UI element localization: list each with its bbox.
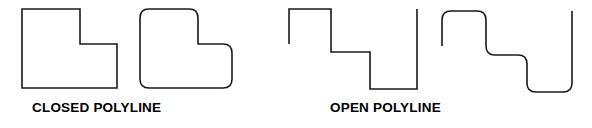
caption-open-polyline: OPEN POLYLINE (330, 100, 441, 115)
caption-closed-polyline: CLOSED POLYLINE (32, 100, 161, 115)
polyline-figure: CLOSED POLYLINE OPEN POLYLINE (0, 0, 592, 128)
